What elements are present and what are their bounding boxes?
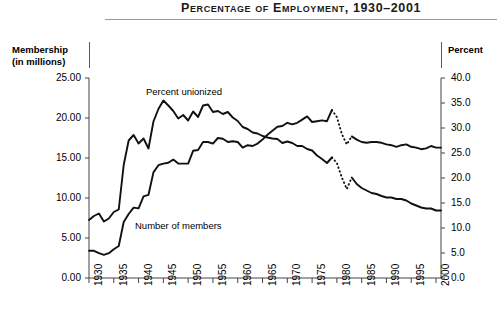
x-axis-tick-label: 1955 xyxy=(217,264,228,286)
x-axis-tick-label: 2000 xyxy=(440,264,451,286)
x-axis-tick-label: 1940 xyxy=(143,264,154,286)
y-axis-tick-label: 15.00 xyxy=(37,153,81,163)
series-line-percent-unionized xyxy=(352,178,441,211)
axis-lines xyxy=(89,78,441,278)
y-axis-tick-label: 0.00 xyxy=(37,273,81,283)
x-axis-ticks xyxy=(89,278,436,283)
x-axis-tick-label: 1990 xyxy=(390,264,401,286)
x-axis-tick-label: 1965 xyxy=(267,264,278,286)
y2-axis-tick-label: 25.0 xyxy=(451,148,491,158)
y-axis-tick-label: 25.00 xyxy=(37,73,81,83)
y-axis-tick-label: 20.00 xyxy=(37,113,81,123)
y2-axis-tick-label: 10.0 xyxy=(451,223,491,233)
y2-axis-tick-label: 35.0 xyxy=(451,98,491,108)
series-line-number-of-members-estimated xyxy=(332,110,352,144)
data-series-layer xyxy=(89,101,441,255)
x-axis-tick-label: 1975 xyxy=(316,264,327,286)
x-axis-tick-label: 1970 xyxy=(291,264,302,286)
x-axis-tick-label: 1930 xyxy=(93,264,104,286)
x-axis-tick-label: 1960 xyxy=(242,264,253,286)
y2-axis-tick-label: 0.0 xyxy=(451,273,491,283)
y-axis-tick-label: 10.00 xyxy=(37,193,81,203)
x-axis-tick-label: 1980 xyxy=(341,264,352,286)
x-axis-tick-label: 1950 xyxy=(192,264,203,286)
y-axis-ticks xyxy=(85,78,89,278)
x-axis-tick-label: 1935 xyxy=(118,264,129,286)
series-line-percent-unionized-estimated xyxy=(332,158,352,190)
x-axis-tick-label: 1945 xyxy=(167,264,178,286)
series-line-percent-unionized xyxy=(89,101,332,222)
y2-axis-ticks xyxy=(441,78,445,278)
x-axis-tick-label: 1985 xyxy=(366,264,377,286)
series-line-number-of-members xyxy=(352,136,441,149)
y2-axis-tick-label: 20.0 xyxy=(451,173,491,183)
y2-axis-tick-label: 15.0 xyxy=(451,198,491,208)
y2-axis-tick-label: 30.0 xyxy=(451,123,491,133)
y-axis-tick-label: 5.00 xyxy=(37,233,81,243)
chart-figure: Percentage of Employment, 1930–2001 Memb… xyxy=(0,0,497,312)
x-axis-tick-label: 1995 xyxy=(415,264,426,286)
y2-axis-tick-label: 40.0 xyxy=(451,73,491,83)
y2-axis-tick-label: 5.0 xyxy=(451,248,491,258)
series-line-number-of-members xyxy=(89,110,332,255)
